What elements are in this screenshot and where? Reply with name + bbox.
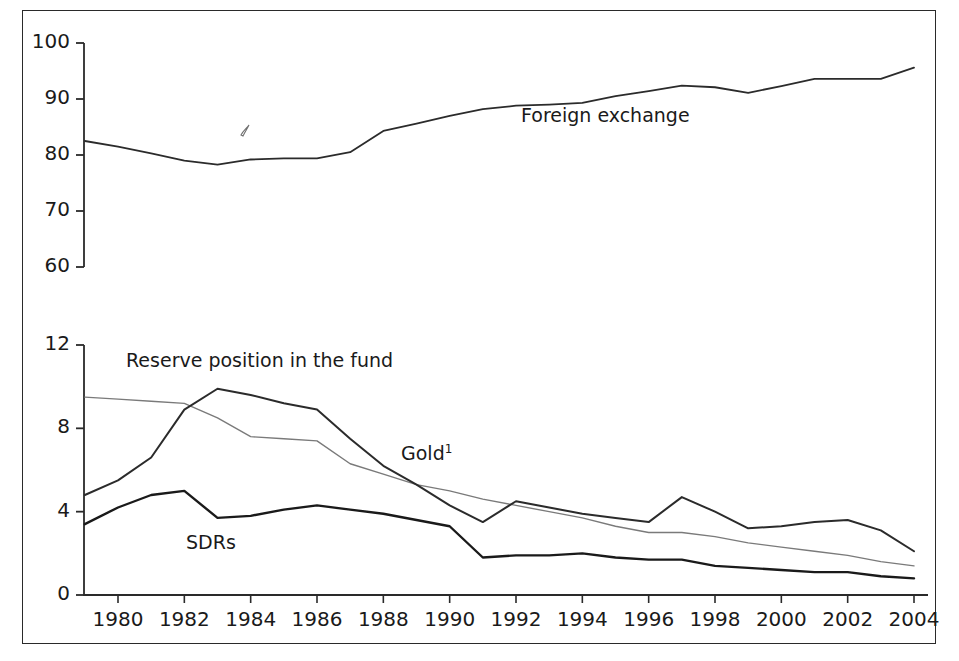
- chart-plot-area: [0, 0, 959, 661]
- xtick-1988: 1988: [348, 607, 418, 631]
- sdrs-label: SDRs: [186, 531, 236, 553]
- xtick-1996: 1996: [614, 607, 684, 631]
- ytick-lower-12: 12: [2, 331, 70, 355]
- ytick-upper-60: 60: [2, 253, 70, 277]
- xtick-1982: 1982: [149, 607, 219, 631]
- scan-artifact-mark: [241, 125, 249, 136]
- xtick-1986: 1986: [282, 607, 352, 631]
- chart-figure: 6070809010004812198019821984198619881990…: [0, 0, 959, 661]
- xtick-1984: 1984: [216, 607, 286, 631]
- xtick-1990: 1990: [415, 607, 485, 631]
- ytick-lower-4: 4: [2, 498, 70, 522]
- lower-panel-axis: [76, 345, 928, 603]
- gold-footnote-marker: 1: [445, 442, 453, 456]
- xtick-1992: 1992: [481, 607, 551, 631]
- ytick-lower-8: 8: [2, 414, 70, 438]
- gold-label-text: Gold: [401, 442, 445, 464]
- foreign-exchange-label: Foreign exchange: [521, 104, 690, 126]
- ytick-upper-70: 70: [2, 197, 70, 221]
- xtick-1994: 1994: [547, 607, 617, 631]
- upper-panel-axis: [76, 43, 84, 267]
- gold-label: Gold1: [401, 442, 452, 464]
- xtick-2000: 2000: [746, 607, 816, 631]
- ytick-upper-100: 100: [2, 29, 70, 53]
- xtick-2004: 2004: [879, 607, 949, 631]
- reserve-position-label: Reserve position in the fund: [126, 349, 393, 371]
- xtick-1998: 1998: [680, 607, 750, 631]
- xtick-2002: 2002: [813, 607, 883, 631]
- ytick-lower-0: 0: [2, 581, 70, 605]
- upper-panel-series: [85, 68, 914, 165]
- ytick-upper-80: 80: [2, 141, 70, 165]
- xtick-1980: 1980: [83, 607, 153, 631]
- ytick-upper-90: 90: [2, 85, 70, 109]
